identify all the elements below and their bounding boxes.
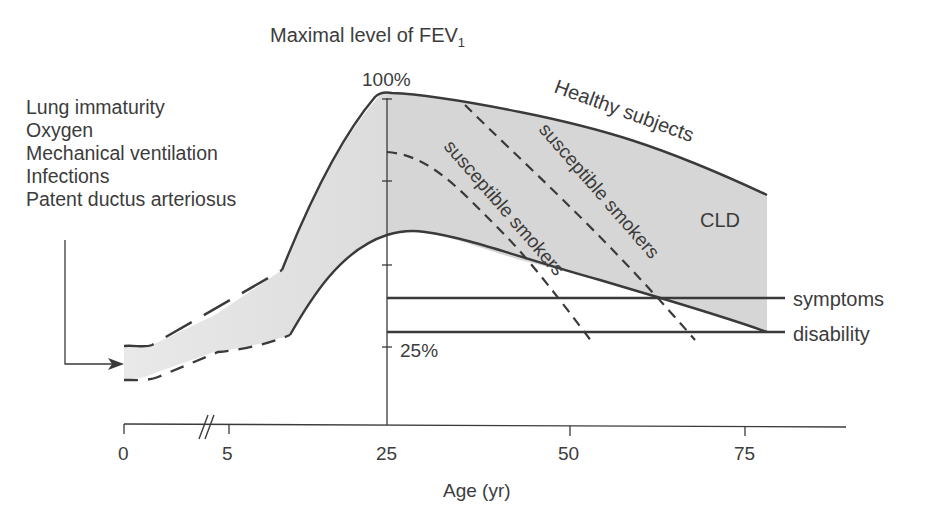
x-axis bbox=[124, 424, 846, 427]
fev1-diagram: Maximal level of FEV1 100% 25% Healthy s… bbox=[0, 0, 927, 525]
chart-title: Maximal level of FEV1 bbox=[270, 24, 465, 50]
x-tick-label: 0 bbox=[118, 443, 129, 464]
y-label-25: 25% bbox=[400, 340, 438, 361]
x-tick-label: 75 bbox=[734, 443, 755, 464]
cld-label: CLD bbox=[700, 209, 740, 231]
symptoms-label: symptoms bbox=[793, 288, 884, 310]
x-tick-label: 5 bbox=[222, 443, 233, 464]
x-axis-label: Age (yr) bbox=[443, 480, 511, 501]
x-tick-label: 50 bbox=[558, 443, 579, 464]
x-tick-label: 25 bbox=[376, 443, 397, 464]
disability-label: disability bbox=[793, 323, 870, 345]
y-label-100: 100% bbox=[362, 69, 411, 90]
risk-arrow-line bbox=[65, 240, 112, 364]
